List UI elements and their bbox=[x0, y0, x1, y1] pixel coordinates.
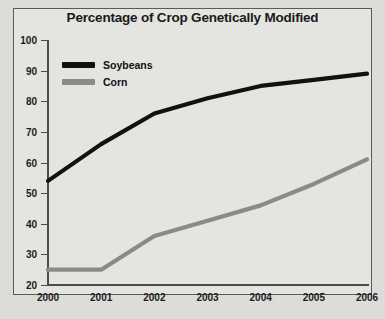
y-tick-mark bbox=[41, 285, 47, 286]
legend-item-soybeans: Soybeans bbox=[62, 56, 153, 73]
y-tick-mark bbox=[41, 101, 47, 102]
chart-frame bbox=[13, 8, 372, 295]
y-tick-label: 90 bbox=[1, 65, 37, 76]
y-tick-mark bbox=[41, 40, 47, 41]
y-tick-mark bbox=[41, 132, 47, 133]
chart-title: Percentage of Crop Genetically Modified bbox=[0, 10, 385, 25]
y-tick-label: 60 bbox=[1, 157, 37, 168]
chart-page: Percentage of Crop Genetically Modified … bbox=[0, 0, 385, 319]
legend-item-corn: Corn bbox=[62, 73, 153, 90]
x-tick-label: 2003 bbox=[188, 292, 228, 303]
y-tick-label: 100 bbox=[1, 35, 37, 46]
y-tick-mark bbox=[41, 71, 47, 72]
legend-swatch-corn bbox=[62, 79, 95, 85]
x-tick-label: 2000 bbox=[28, 292, 68, 303]
y-tick-label: 50 bbox=[1, 188, 37, 199]
x-tick-label: 2002 bbox=[134, 292, 174, 303]
y-tick-label: 70 bbox=[1, 126, 37, 137]
y-axis-line bbox=[47, 40, 49, 286]
y-tick-label: 80 bbox=[1, 96, 37, 107]
legend-label-soybeans: Soybeans bbox=[103, 59, 153, 71]
x-tick-label: 2001 bbox=[81, 292, 121, 303]
x-tick-label: 2005 bbox=[294, 292, 334, 303]
x-tick-label: 2004 bbox=[241, 292, 281, 303]
y-tick-mark bbox=[41, 163, 47, 164]
y-tick-label: 30 bbox=[1, 249, 37, 260]
x-tick-label: 2006 bbox=[347, 292, 385, 303]
x-axis-line bbox=[47, 284, 369, 286]
y-tick-mark bbox=[41, 224, 47, 225]
y-tick-mark bbox=[41, 254, 47, 255]
y-tick-label: 20 bbox=[1, 280, 37, 291]
legend-label-corn: Corn bbox=[103, 76, 128, 88]
y-tick-mark bbox=[41, 193, 47, 194]
legend-swatch-soybeans bbox=[62, 62, 95, 68]
chart-legend: Soybeans Corn bbox=[62, 56, 153, 90]
y-tick-label: 40 bbox=[1, 218, 37, 229]
